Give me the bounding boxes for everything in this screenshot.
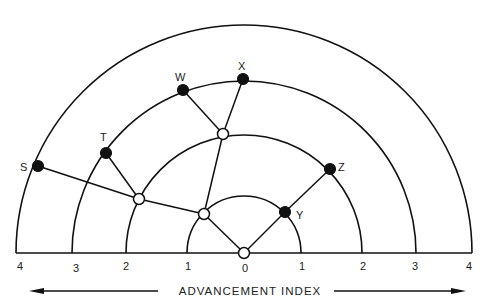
node-z: Z: [325, 161, 346, 175]
node-label: W: [175, 71, 186, 83]
edge-b-S: [38, 166, 139, 199]
tick-label: 2: [360, 260, 366, 272]
edge-a-c: [204, 134, 223, 214]
tick-label: 0: [242, 262, 248, 274]
node-y: Y: [280, 207, 305, 222]
open-node-icon: [199, 209, 210, 220]
tick-label: 4: [17, 260, 23, 272]
edge-origin-a: [204, 214, 244, 253]
network-edges: [38, 79, 330, 253]
axis-tick-labels: 432101234: [17, 260, 472, 274]
node-origin: [239, 248, 250, 259]
node-label: Z: [338, 161, 345, 173]
tick-label: 4: [466, 260, 472, 272]
axis-title: ADVANCEMENT INDEX: [179, 285, 321, 297]
node-c: [218, 129, 229, 140]
right-arrow-icon: [451, 288, 466, 294]
edge-Y-Z: [285, 169, 330, 212]
ring-1: [187, 196, 301, 253]
filled-node-icon: [101, 148, 112, 159]
tick-label: 2: [123, 260, 129, 272]
ring-3: [72, 81, 416, 253]
filled-node-icon: [33, 161, 44, 172]
advancement-index-diagram: YZTWXS 432101234 ADVANCEMENT INDEX: [0, 0, 489, 308]
left-arrow-icon: [29, 288, 44, 294]
tick-label: 3: [412, 260, 418, 272]
tick-label: 1: [185, 260, 191, 272]
node-label: S: [20, 161, 27, 173]
node-a: [199, 209, 210, 220]
node-label: Y: [296, 209, 304, 221]
tick-label: 1: [299, 260, 305, 272]
node-b: [134, 194, 145, 205]
filled-node-icon: [325, 164, 336, 175]
node-w: W: [175, 71, 189, 96]
open-node-icon: [134, 194, 145, 205]
node-label: X: [238, 60, 246, 72]
node-x: X: [238, 60, 249, 85]
open-node-icon: [218, 129, 229, 140]
open-node-icon: [239, 248, 250, 259]
edge-c-X: [223, 79, 243, 134]
edge-a-b: [139, 199, 204, 214]
node-label: T: [100, 131, 107, 143]
ring-2: [126, 135, 362, 253]
filled-node-icon: [238, 74, 249, 85]
edge-origin-Y: [244, 212, 285, 253]
edge-c-W: [183, 90, 223, 134]
edge-b-T: [106, 153, 139, 199]
filled-node-icon: [280, 207, 291, 218]
axis-title-group: ADVANCEMENT INDEX: [29, 285, 466, 297]
tick-label: 3: [73, 262, 79, 274]
filled-node-icon: [178, 85, 189, 96]
